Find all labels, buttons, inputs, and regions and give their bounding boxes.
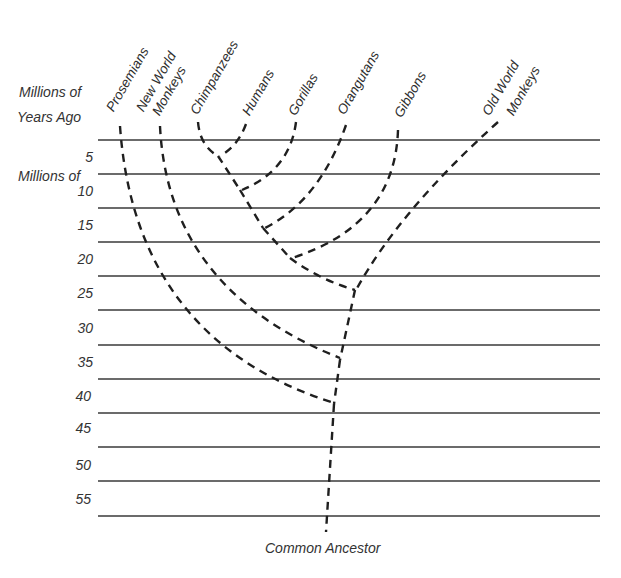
branch-root xyxy=(326,404,334,532)
branch-gorillas xyxy=(242,122,296,190)
tick-45: 45 xyxy=(51,420,91,436)
root-label: Common Ancestor xyxy=(265,540,380,556)
tick-5: 5 xyxy=(53,149,93,165)
tick-10: 10 xyxy=(53,183,93,199)
branch-catarrhine-stem xyxy=(340,290,355,360)
phylogenetic-diagram: Millions of xyxy=(0,0,621,578)
branches xyxy=(120,122,498,532)
branch-chimp-human-stem xyxy=(218,156,240,190)
tick-20: 20 xyxy=(53,251,93,267)
tick-40: 40 xyxy=(51,388,91,404)
tick-55: 55 xyxy=(51,491,91,507)
tick-15: 15 xyxy=(53,217,93,233)
branch-great-ape-stem xyxy=(263,228,290,258)
branch-ape-stem xyxy=(290,258,355,290)
branch-chimpanzees xyxy=(198,122,218,156)
branch-anthropoid-stem xyxy=(334,360,340,404)
tick-35: 35 xyxy=(53,354,93,370)
tick-50: 50 xyxy=(51,457,91,473)
branch-old-world-monkeys xyxy=(356,122,498,290)
axis-title-top: Millions of xyxy=(19,84,81,100)
branch-african-ape-stem xyxy=(240,190,263,228)
axis-title-bottom: Years Ago xyxy=(17,109,81,125)
branch-gibbons xyxy=(292,130,398,258)
tick-30: 30 xyxy=(53,320,93,336)
branch-prosemians xyxy=(120,126,334,403)
tick-25: 25 xyxy=(53,285,93,301)
